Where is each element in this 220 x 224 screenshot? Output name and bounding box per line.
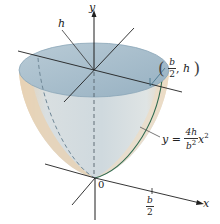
equation-label: y = 4h b2 x2 xyxy=(162,128,209,151)
x-tick-denominator: 2 xyxy=(147,207,153,217)
equation-denominator-exponent: 2 xyxy=(192,139,196,147)
x-axis-label: x xyxy=(203,198,209,209)
y-axis-label: y xyxy=(89,2,95,13)
point-separator: , xyxy=(176,62,180,75)
point-x-numerator: b xyxy=(168,58,176,69)
x-tick-fraction: b 2 xyxy=(146,196,154,217)
equation-lhs: y xyxy=(162,133,168,146)
equation-numerator: 4h xyxy=(184,128,198,139)
point-y: h xyxy=(183,62,190,75)
z-axis-lower xyxy=(72,178,95,205)
x-tick-label: b 2 xyxy=(146,196,154,217)
point-close-paren: ) xyxy=(194,58,201,78)
paraboloid-diagram xyxy=(0,0,220,224)
height-label: h xyxy=(58,18,65,29)
equation-equals: = xyxy=(172,133,181,146)
x-tick-numerator: b xyxy=(146,196,154,207)
point-x-denominator: 2 xyxy=(169,69,175,79)
point-x-fraction: b 2 xyxy=(168,58,176,79)
equation-variable-exponent: 2 xyxy=(204,132,208,140)
point-label: ( b 2 , h ) xyxy=(158,58,200,79)
equation-coefficient: 4h b2 xyxy=(184,128,198,151)
point-open-paren: ( xyxy=(158,58,165,78)
origin-label: 0 xyxy=(98,180,104,190)
